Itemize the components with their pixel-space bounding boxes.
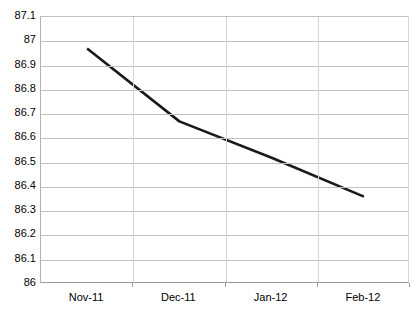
y-axis: 87.18786.986.886.786.686.586.486.386.286… bbox=[0, 0, 36, 318]
y-tick-label: 86.4 bbox=[0, 180, 36, 191]
gridline-horizontal bbox=[41, 41, 408, 42]
y-tick-label: 86.8 bbox=[0, 83, 36, 94]
y-tick-label: 86.5 bbox=[0, 156, 36, 167]
gridline-vertical bbox=[318, 17, 319, 282]
gridline-horizontal bbox=[41, 211, 408, 212]
y-tick-label: 86.6 bbox=[0, 131, 36, 142]
gridline-horizontal bbox=[41, 260, 408, 261]
x-tick-mark bbox=[132, 283, 133, 287]
gridline-horizontal bbox=[41, 138, 408, 139]
line-chart: 87.18786.986.886.786.686.586.486.386.286… bbox=[0, 0, 416, 318]
gridline-vertical bbox=[133, 17, 134, 282]
x-tick-label: Dec-11 bbox=[161, 291, 196, 303]
y-tick-label: 86.3 bbox=[0, 204, 36, 215]
y-tick-label: 87 bbox=[0, 34, 36, 45]
y-tick-label: 87.1 bbox=[0, 10, 36, 21]
x-tick-mark bbox=[225, 283, 226, 287]
y-tick-label: 86.2 bbox=[0, 228, 36, 239]
x-tick-mark bbox=[409, 283, 410, 287]
plot-area bbox=[40, 16, 409, 283]
x-axis: Nov-11Dec-11Jan-12Feb-12 bbox=[40, 291, 409, 311]
y-tick-label: 86.9 bbox=[0, 59, 36, 70]
gridline-horizontal bbox=[41, 163, 408, 164]
y-tick-label: 86.1 bbox=[0, 253, 36, 264]
y-tick-label: 86 bbox=[0, 277, 36, 288]
x-tick-label: Jan-12 bbox=[254, 291, 288, 303]
gridline-vertical bbox=[226, 17, 227, 282]
gridline-horizontal bbox=[41, 66, 408, 67]
gridline-horizontal bbox=[41, 114, 408, 115]
gridline-horizontal bbox=[41, 90, 408, 91]
x-tick-label: Feb-12 bbox=[345, 291, 380, 303]
gridline-horizontal bbox=[41, 235, 408, 236]
x-tick-label: Nov-11 bbox=[69, 291, 104, 303]
x-axis-ticks bbox=[40, 283, 409, 288]
y-tick-label: 86.7 bbox=[0, 107, 36, 118]
gridline-horizontal bbox=[41, 187, 408, 188]
x-tick-mark bbox=[317, 283, 318, 287]
